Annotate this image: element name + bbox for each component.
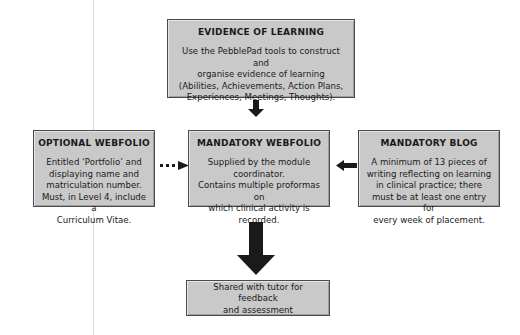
node-title: MANDATORY BLOG (380, 137, 477, 149)
node-title: OPTIONAL WEBFOLIO (38, 137, 150, 149)
node-optional-webfolio: OPTIONAL WEBFOLIO Entitled ‘Portfolio’ a… (33, 130, 155, 207)
node-title: EVIDENCE OF LEARNING (198, 26, 324, 38)
node-shared-with-tutor: Shared with tutor for feedback and asses… (186, 280, 330, 316)
node-title: MANDATORY WEBFOLIO (197, 137, 321, 149)
arrow-down-webfolio-to-shared (236, 222, 276, 276)
arrow-dotted-optional-to-webfolio (160, 160, 190, 171)
arrow-dot (166, 164, 169, 167)
node-body: Entitled ‘Portfolio’ and displaying name… (40, 157, 148, 227)
arrow-left-blog-to-webfolio (336, 160, 357, 171)
node-mandatory-blog: MANDATORY BLOG A minimum of 13 pieces of… (358, 130, 500, 207)
node-evidence-of-learning: EVIDENCE OF LEARNING Use the PebblePad t… (167, 19, 355, 98)
arrow-down-evidence-to-webfolio (247, 100, 265, 117)
node-body: Shared with tutor for feedback and asses… (193, 282, 323, 317)
node-body: A minimum of 13 pieces of writing reflec… (365, 157, 493, 227)
node-mandatory-webfolio: MANDATORY WEBFOLIO Supplied by the modul… (188, 130, 330, 207)
arrow-dot (172, 164, 175, 167)
diagram-canvas: EVIDENCE OF LEARNING Use the PebblePad t… (0, 0, 520, 335)
node-body: Supplied by the module coordinator. Cont… (195, 157, 323, 227)
arrow-dot (160, 164, 163, 167)
node-body: Use the PebblePad tools to construct and… (174, 46, 348, 104)
